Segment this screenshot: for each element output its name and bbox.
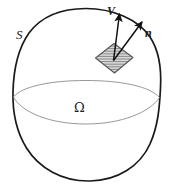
- velocity-vector-label: V: [107, 5, 115, 17]
- normal-vector-label: n: [145, 27, 152, 39]
- volume-label-omega: Ω: [74, 101, 85, 114]
- surface-label-s: S: [16, 28, 23, 41]
- geometry-figure: S Ω V n: [0, 0, 173, 189]
